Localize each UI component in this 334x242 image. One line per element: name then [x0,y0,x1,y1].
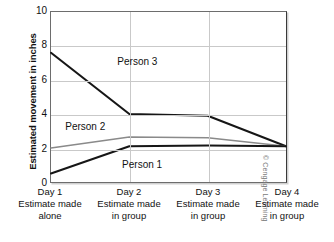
series-lines [51,12,286,182]
gridline-horizontal [51,46,286,47]
gridline-vertical [130,12,131,182]
series-line [51,53,286,147]
x-tick-desc-line1: Estimate made [237,198,334,210]
plot-area: Person 3Person 2Person 1 [50,11,287,183]
gridline-vertical [209,12,210,182]
y-axis-tick-label: 4 [25,109,47,119]
gridline-horizontal [51,81,286,82]
series-label-person-3: Person 3 [117,56,157,67]
x-tick-desc-line2: in group [237,210,334,222]
x-axis-tick-label: Day 4Estimate madein group [237,186,334,223]
chart-figure: Estimated movement in inches 0246810 Per… [0,0,334,242]
series-label-person-1: Person 1 [122,159,162,170]
gridline-horizontal [51,150,286,151]
y-axis-tick-label: 10 [25,6,47,16]
gridline-horizontal [51,115,286,116]
y-axis-tick-label: 6 [25,75,47,85]
y-axis-tick-label: 2 [25,144,47,154]
x-tick-day: Day 4 [237,186,334,198]
series-label-person-2: Person 2 [65,121,105,132]
y-axis-tick-label: 8 [25,40,47,50]
